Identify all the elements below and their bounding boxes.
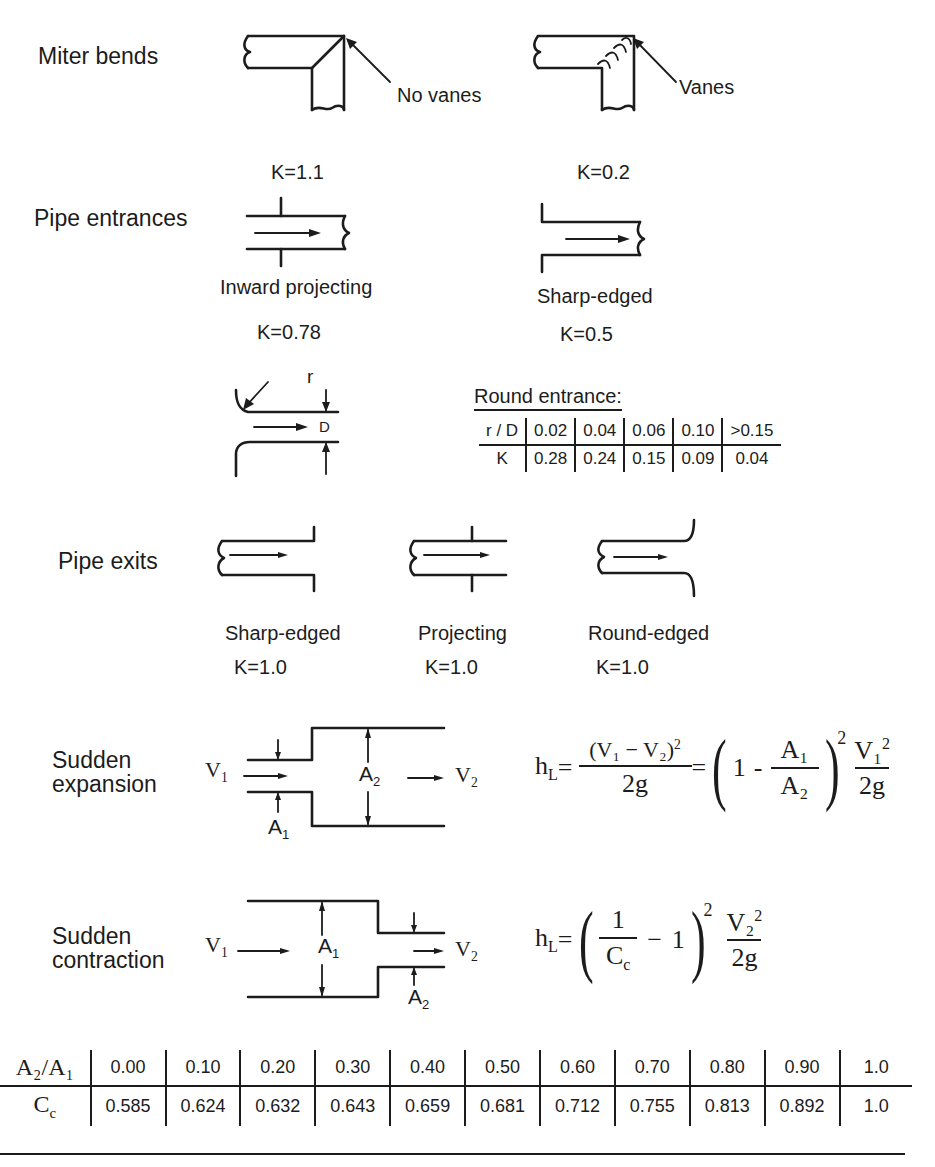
sudden-expansion-title-line2: expansion [52, 772, 157, 796]
area-ratio-header: A₂/A₁ [0, 1050, 91, 1086]
cc-value: 0.643 [315, 1086, 390, 1126]
cc-row: Cc 0.585 0.624 0.632 0.643 0.659 0.681 0… [0, 1086, 912, 1126]
contraction-v1-label: V1 [205, 932, 228, 961]
area-ratio-row: A₂/A₁ 0.00 0.10 0.20 0.30 0.40 0.50 0.60… [0, 1050, 912, 1086]
area-ratio-value: 0.90 [765, 1050, 840, 1086]
bottom-rule-divider [0, 1153, 905, 1155]
no-vanes-label: No vanes [397, 84, 482, 107]
k-value: 0.24 [575, 445, 624, 472]
area-ratio-value: 0.30 [315, 1050, 390, 1086]
projecting-exit-label: Projecting [418, 622, 507, 645]
no-vanes-pointer-arrow [345, 37, 395, 87]
area-ratio-value: 0.40 [390, 1050, 465, 1086]
sudden-contraction-title-line2: contraction [52, 948, 165, 972]
miter-bend-no-vanes-diagram [240, 34, 360, 114]
sudden-contraction-title: Sudden contraction [52, 924, 165, 972]
rd-value: 0.10 [673, 418, 722, 445]
sharp-edged-exit-k-value: K=1.0 [234, 656, 287, 679]
round-edged-exit-label: Round-edged [588, 622, 709, 645]
contraction-a1-label: A1 [318, 934, 339, 961]
area-ratio-value: 0.10 [166, 1050, 241, 1086]
sharp-edged-entrance-k-value: K=0.5 [560, 323, 613, 346]
area-ratio-fraction: A₁ A₂ [771, 735, 819, 801]
kinetic-head-fraction: V₁2 2g [850, 735, 894, 802]
k-value: 0.15 [624, 445, 673, 472]
area-ratio-value: 1.0 [840, 1050, 912, 1086]
round-edged-exit-k-value: K=1.0 [596, 656, 649, 679]
left-paren: ( [579, 900, 594, 980]
rd-value: >0.15 [722, 418, 780, 445]
inward-projecting-entrance-diagram [245, 196, 355, 266]
rd-value: 0.02 [526, 418, 575, 445]
cc-value: 0.624 [166, 1086, 241, 1126]
k-value: 0.28 [526, 445, 575, 472]
rd-value: 0.04 [575, 418, 624, 445]
round-entrance-r-label: r [307, 366, 313, 388]
sudden-contraction-title-line1: Sudden [52, 924, 165, 948]
head-loss-symbol: hL [535, 751, 558, 784]
inverse-cc-fraction: 1 Cc [599, 905, 637, 974]
sudden-expansion-title: Sudden expansion [52, 748, 157, 796]
round-entrance-table: r / D 0.02 0.04 0.06 0.10 >0.15 K 0.28 0… [479, 418, 781, 472]
projecting-exit-diagram [404, 525, 514, 595]
sharp-edged-entrance-diagram [540, 202, 650, 272]
pipe-entrances-title: Pipe entrances [34, 205, 187, 232]
head-loss-symbol: hL [535, 923, 558, 956]
pipe-exits-title: Pipe exits [58, 548, 158, 575]
rd-header-label: r / D [479, 418, 526, 445]
vanes-k-value: K=0.2 [577, 161, 630, 184]
area-ratio-value: 0.80 [690, 1050, 765, 1086]
area-ratio-value: 0.20 [240, 1050, 315, 1086]
cc-value: 0.712 [540, 1086, 615, 1126]
inward-projecting-label: Inward projecting [220, 276, 372, 299]
round-entrance-k-row: K 0.28 0.24 0.15 0.09 0.04 [479, 445, 781, 472]
expansion-v1-label: V1 [205, 757, 228, 786]
cc-value: 0.813 [690, 1086, 765, 1126]
area-ratio-value: 0.70 [615, 1050, 690, 1086]
no-vanes-k-value: K=1.1 [271, 161, 324, 184]
cc-value: 0.681 [465, 1086, 540, 1126]
vanes-pointer-arrow [632, 37, 682, 87]
k-value: 0.09 [673, 445, 722, 472]
sharp-edged-exit-diagram [212, 525, 322, 595]
cc-value: 0.659 [390, 1086, 465, 1126]
k-value: 0.04 [722, 445, 780, 472]
expansion-a1-label: A1 [268, 815, 289, 842]
area-ratio-value: 0.00 [91, 1050, 166, 1086]
contraction-v2-label: V2 [455, 936, 478, 965]
left-paren: ( [712, 728, 727, 808]
cc-value: 0.892 [765, 1086, 840, 1126]
vanes-label: Vanes [679, 76, 734, 99]
cc-value: 0.755 [615, 1086, 690, 1126]
kinetic-head-fraction: V₂2 2g [722, 907, 766, 974]
sudden-contraction-equation: hL = ( 1 Cc − 1 ) 2 V₂2 2g [535, 900, 766, 980]
rd-value: 0.06 [624, 418, 673, 445]
right-paren: ) [824, 728, 839, 808]
sudden-expansion-equation: hL = (V₁ − V₂)2 2g = ( 1 - A₁ A₂ ) 2 V₁2… [535, 728, 894, 808]
area-ratio-value: 0.50 [465, 1050, 540, 1086]
expansion-v2-label: V2 [455, 762, 478, 791]
round-entrance-title: Round entrance: [474, 385, 622, 411]
round-entrance-d-label: D [319, 418, 330, 435]
cc-value: 0.585 [91, 1086, 166, 1126]
cc-header: Cc [0, 1086, 91, 1126]
expansion-a2-label: A2 [359, 762, 380, 789]
round-entrance-header-row: r / D 0.02 0.04 0.06 0.10 >0.15 [479, 418, 781, 445]
right-paren: ) [691, 900, 706, 980]
area-ratio-value: 0.60 [540, 1050, 615, 1086]
inward-projecting-k-value: K=0.78 [257, 321, 321, 344]
miter-bends-title: Miter bends [38, 43, 158, 70]
cc-value: 1.0 [840, 1086, 912, 1126]
sudden-expansion-title-line1: Sudden [52, 748, 157, 772]
sharp-edged-exit-label: Sharp-edged [225, 622, 341, 645]
contraction-coefficient-table: A₂/A₁ 0.00 0.10 0.20 0.30 0.40 0.50 0.60… [0, 1050, 912, 1126]
round-edged-exit-diagram [592, 516, 702, 601]
sharp-edged-entrance-label: Sharp-edged [537, 285, 653, 308]
contraction-a2-label: A2 [408, 985, 429, 1012]
velocity-difference-fraction: (V₁ − V₂)2 2g [579, 737, 692, 799]
projecting-exit-k-value: K=1.0 [425, 656, 478, 679]
k-row-label: K [479, 445, 526, 472]
cc-value: 0.632 [240, 1086, 315, 1126]
